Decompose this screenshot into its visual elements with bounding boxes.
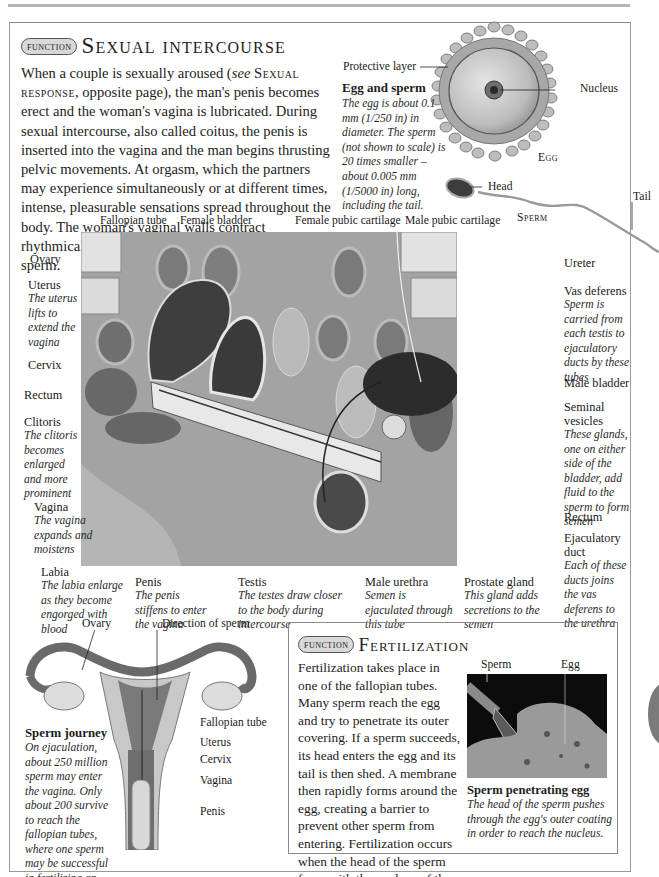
sperm-illustration <box>440 168 659 258</box>
page-title: Sexual intercourse <box>81 33 286 58</box>
tail-label: Tail <box>633 190 651 203</box>
label-rectum-female: Rectum <box>24 388 62 402</box>
label-rectum-male: Rectum <box>564 510 602 524</box>
label-female-pubic-cartilage: Female pubic cartilage <box>295 214 401 227</box>
journey-label-fallopian-tube: Fallopian tube <box>200 716 267 729</box>
journey-label-vagina: Vagina <box>200 774 232 787</box>
micrograph-image <box>467 674 607 778</box>
chapter-tab-marker <box>648 684 659 744</box>
label-male-pubic-cartilage: Male pubic cartilage <box>405 214 500 227</box>
fertilization-heading: FUNCTION Fertilization <box>298 634 469 656</box>
fertilization-title: Fertilization <box>358 634 469 655</box>
fertilization-body: Fertilization takes place in one of the … <box>298 659 462 877</box>
sperm-journey-caption: Sperm journey On ejaculation, about 250 … <box>25 725 118 877</box>
label-vas-deferens: Vas deferens Sperm is carried from each … <box>564 284 630 385</box>
cross-section-diagram <box>81 232 457 566</box>
journey-label-direction: Direction of sperm <box>162 617 250 630</box>
function-badge-fertilization: FUNCTION <box>298 636 354 653</box>
sperm-label: Sperm <box>517 211 548 224</box>
journey-label-cervix: Cervix <box>200 753 232 766</box>
journey-label-ovary: Ovary <box>82 617 111 630</box>
protective-layer-label: Protective layer <box>343 60 416 73</box>
label-cervix: Cervix <box>28 358 61 372</box>
function-badge: FUNCTION <box>21 38 77 55</box>
micro-label-egg: Egg <box>561 658 580 671</box>
label-ejaculatory-duct: Ejaculatory duct Each of these ducts joi… <box>564 531 630 632</box>
micrograph-caption: Sperm penetrating egg The head of the sp… <box>467 782 617 842</box>
label-fallopian-tube: Fallopian tube <box>100 214 167 227</box>
label-female-bladder: Female bladder <box>180 214 252 227</box>
label-vagina: Vagina The vagina expands and moistens <box>34 500 94 558</box>
top-rule <box>8 4 630 7</box>
egg-label: Egg <box>538 151 558 164</box>
journey-label-penis: Penis <box>200 805 225 818</box>
nucleus-label: Nucleus <box>580 82 618 95</box>
label-ureter: Ureter <box>564 256 595 270</box>
label-male-bladder: Male bladder <box>564 376 629 390</box>
label-uterus: Uterus The uterus lifts to extend the va… <box>28 278 80 350</box>
egg-sperm-caption: Egg and sperm The egg is about 0.1 mm (1… <box>342 80 447 213</box>
section-heading: FUNCTION Sexual intercourse <box>21 33 286 59</box>
micro-label-sperm: Sperm <box>481 658 511 671</box>
label-clitoris: Clitoris The clitoris becomes enlarged a… <box>24 415 80 502</box>
journey-label-uterus: Uterus <box>200 736 231 749</box>
label-ovary: Ovary <box>30 252 61 266</box>
head-label: Head <box>488 180 512 193</box>
